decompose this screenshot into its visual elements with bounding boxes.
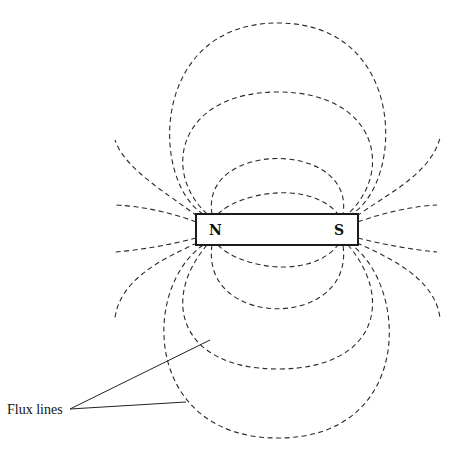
flux-loop-top-3 bbox=[183, 92, 373, 214]
leader-line-1 bbox=[70, 340, 210, 409]
flux-open-left-3 bbox=[115, 238, 196, 252]
flux-loop-top-4 bbox=[170, 23, 386, 214]
flux-open-left-4 bbox=[115, 243, 197, 318]
flux-lines-right bbox=[357, 138, 440, 318]
south-pole-label: S bbox=[334, 222, 344, 238]
flux-lines-label: Flux lines bbox=[7, 402, 63, 417]
north-pole-label: N bbox=[209, 222, 222, 238]
flux-lines-annotation: Flux lines bbox=[7, 340, 210, 417]
flux-loop-bottom-2 bbox=[211, 245, 343, 309]
flux-loop-top-1 bbox=[218, 193, 338, 214]
bar-magnet-diagram: N S Flux lines bbox=[0, 0, 459, 454]
flux-open-right-2 bbox=[358, 205, 437, 222]
flux-open-right-4 bbox=[357, 243, 440, 318]
flux-open-left-2 bbox=[115, 205, 196, 222]
flux-loop-bottom-3 bbox=[183, 245, 373, 369]
flux-lines-top bbox=[170, 23, 386, 214]
flux-lines-left bbox=[115, 140, 197, 318]
flux-loop-top-2 bbox=[211, 159, 343, 215]
flux-loop-bottom-1 bbox=[218, 245, 338, 267]
flux-open-right-3 bbox=[358, 238, 437, 252]
bar-magnet: N S bbox=[196, 214, 358, 245]
flux-lines-bottom bbox=[164, 245, 389, 438]
leader-line-2 bbox=[70, 402, 186, 409]
flux-open-right-1 bbox=[357, 138, 440, 216]
